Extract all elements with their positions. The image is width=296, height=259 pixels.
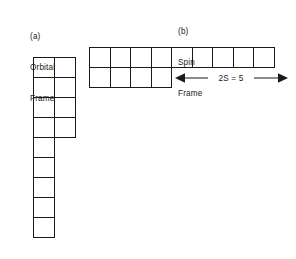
spin-cell-r1-c7 (212, 47, 234, 68)
spin-cell-r1-c5 (171, 47, 193, 68)
orbital-cell-r3-c1 (33, 97, 55, 118)
caption-orbital-tag: (a) (30, 32, 55, 42)
orbital-cell-r2-c1 (33, 77, 55, 98)
orbital-cell-r4-c1 (33, 117, 55, 138)
spin-cell-r1-c9 (253, 47, 275, 68)
orbital-cell-r3-c2 (54, 97, 76, 118)
spin-measure-annotation: 2S = 5 (175, 68, 288, 88)
orbital-cell-r7-c1 (33, 177, 55, 198)
orbital-frame-diagram (33, 57, 76, 238)
orbital-cell-r9-c1 (33, 217, 55, 238)
orbital-cell-r4-c2 (54, 117, 76, 138)
figure-root: (a) Orbital Frame (b) Spin Frame 2S = 5 (0, 0, 296, 259)
spin-cell-r1-c2 (110, 47, 132, 68)
orbital-cell-r2-c2 (54, 77, 76, 98)
orbital-cell-r6-c1 (33, 157, 55, 178)
orbital-cell-r8-c1 (33, 197, 55, 218)
spin-cell-r2-c3 (130, 67, 152, 88)
caption-spin-line2: Frame (178, 89, 202, 99)
orbital-cell-r5-c1 (33, 137, 55, 158)
spin-cell-r1-c1 (89, 47, 111, 68)
spin-measure-label: 2S = 5 (208, 68, 254, 88)
spin-cell-r1-c6 (192, 47, 214, 68)
orbital-cell-r1-c1 (33, 57, 55, 78)
spin-cell-r2-c1 (89, 67, 111, 88)
spin-cell-r2-c2 (110, 67, 132, 88)
spin-cell-r1-c8 (233, 47, 255, 68)
caption-spin-tag: (b) (178, 27, 202, 37)
orbital-cell-r1-c2 (54, 57, 76, 78)
spin-cell-r1-c3 (130, 47, 152, 68)
spin-cell-r2-c4 (151, 67, 173, 88)
spin-cell-r1-c4 (151, 47, 173, 68)
